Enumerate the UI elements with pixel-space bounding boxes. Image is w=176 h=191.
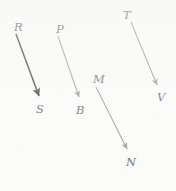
node-label-v: V <box>157 92 166 104</box>
node-label-m: M <box>93 74 105 86</box>
node-label-n: N <box>126 157 136 169</box>
arrow-layer <box>0 0 176 191</box>
node-label-p: P <box>56 24 64 36</box>
node-label-b: B <box>76 105 85 117</box>
arrow-p-b <box>58 36 79 97</box>
diagram-canvas: R S P B M N T V <box>0 0 176 191</box>
node-label-r: R <box>14 22 23 34</box>
arrow-t-v <box>131 22 157 85</box>
arrow-m-n <box>96 87 127 149</box>
node-label-s: S <box>36 104 44 116</box>
arrow-r-s <box>16 34 39 96</box>
node-label-t: T <box>123 10 131 22</box>
